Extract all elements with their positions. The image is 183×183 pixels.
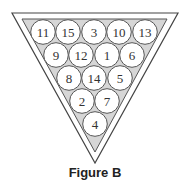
- ball-number: 2: [79, 94, 86, 109]
- ball-number: 8: [66, 71, 73, 86]
- ball-number: 7: [104, 94, 111, 109]
- ball-number: 9: [53, 48, 60, 63]
- ball-number: 3: [91, 25, 98, 40]
- ball-number: 15: [62, 25, 75, 40]
- ball-number: 14: [88, 71, 102, 86]
- ball-number: 13: [139, 25, 152, 40]
- ball-number: 4: [92, 117, 99, 132]
- ball-number: 5: [117, 71, 124, 86]
- figure-caption: Figure B: [0, 165, 183, 180]
- rack-diagram: 111531013912168145274: [0, 0, 183, 183]
- ball-number: 1: [104, 48, 111, 63]
- ball-number: 10: [113, 25, 126, 40]
- ball-number: 12: [75, 48, 88, 63]
- ball-number: 6: [129, 48, 136, 63]
- ball-number: 11: [37, 25, 50, 40]
